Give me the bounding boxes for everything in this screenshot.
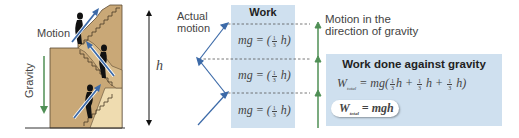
fraction: 13	[417, 78, 422, 91]
result-equation: Wtotal = mgh	[339, 101, 394, 116]
fraction: 13	[272, 105, 277, 118]
fraction: 13	[447, 78, 452, 91]
fraction: 13	[272, 35, 277, 48]
gravity-motion-label: Motion in the direction of gravity	[325, 13, 418, 37]
gravity-direction-arrow	[315, 22, 321, 128]
total-work-equation: Wtotal = mg(13h + 13 h + 13 h)	[337, 76, 466, 91]
fraction: 13	[272, 70, 277, 83]
actual-motion-zigzag	[197, 23, 228, 125]
work-row-2: mg = (13 h)	[238, 68, 291, 83]
work-row-3: mg = (13 h)	[238, 103, 291, 118]
work-against-gravity-title: Work done against gravity	[326, 58, 502, 70]
work-row-1: mg = (13 h)	[238, 33, 291, 48]
fraction: 13	[390, 78, 395, 91]
